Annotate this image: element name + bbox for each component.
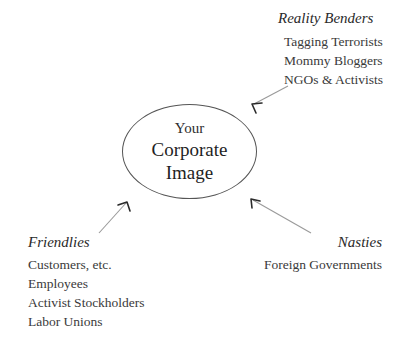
group-reality-benders-item: Mommy Bloggers [284, 51, 383, 70]
center-node-line-2: Corporate [152, 138, 228, 161]
group-friendlies-item: Employees [28, 274, 145, 293]
arrow-nasties-line [253, 200, 311, 233]
group-friendlies-item: Customers, etc. [28, 255, 145, 274]
group-nasties-title: Nasties [264, 232, 382, 252]
center-node: Your Corporate Image [122, 104, 257, 199]
group-reality-benders-item: Tagging Terrorists [284, 32, 383, 51]
diagram-canvas: Your Corporate Image Reality Benders Tag… [0, 0, 401, 346]
group-friendlies-item: Activist Stockholders [28, 293, 145, 312]
group-nasties-item: Foreign Governments [264, 255, 382, 274]
group-reality-benders: Reality Benders Tagging Terrorists Mommy… [284, 8, 383, 89]
center-node-line-3: Image [166, 161, 213, 184]
group-nasties: Nasties Foreign Governments [264, 232, 382, 274]
arrow-friendlies-line [99, 203, 126, 233]
group-reality-benders-item: NGOs & Activists [284, 70, 383, 89]
group-friendlies-title: Friendlies [28, 232, 145, 252]
group-friendlies: Friendlies Customers, etc. Employees Act… [28, 232, 145, 331]
arrow-reality-benders-head [252, 103, 262, 113]
center-node-line-1: Your [175, 119, 204, 138]
arrow-reality-benders-line [254, 86, 288, 104]
group-friendlies-item: Labor Unions [28, 312, 145, 331]
group-reality-benders-title: Reality Benders [278, 8, 383, 28]
